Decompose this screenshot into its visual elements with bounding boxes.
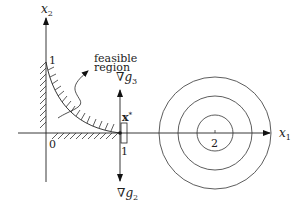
optimum-label: x* (122, 110, 133, 124)
optimization-diagram: x1 x2 0 1 (0, 0, 302, 210)
origin-label: 0 (49, 138, 56, 151)
constraint-curve-hatching (48, 67, 114, 131)
x1-axis-label: x1 (279, 126, 291, 142)
gradient-g3-label: ∇g3 (116, 70, 137, 86)
contour-center-label: 2 (211, 137, 218, 150)
x1-axis-hatching (52, 133, 118, 139)
x2-axis-hatching (40, 62, 46, 128)
x2-tick-one: 1 (49, 54, 56, 67)
x2-axis-label: x2 (41, 2, 53, 18)
feasible-region-pointer-arrow (58, 71, 88, 118)
x1-tick-one: 1 (121, 145, 128, 158)
gradient-g2-label: ∇g2 (117, 186, 138, 202)
